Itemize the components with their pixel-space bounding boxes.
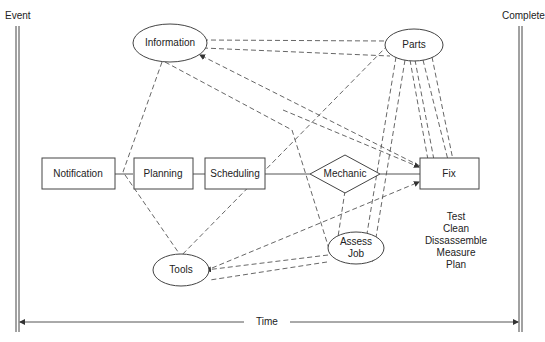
- mechanic-label: Mechanic: [324, 168, 367, 180]
- information-label: Information: [145, 37, 195, 49]
- planning-label: Planning: [144, 168, 183, 180]
- activity-dissassemble: Dissassemble: [425, 235, 487, 247]
- event-label: Event: [5, 10, 31, 22]
- activity-plan: Plan: [425, 259, 487, 271]
- job-label: Job: [348, 248, 364, 260]
- complete-label: Complete: [502, 10, 545, 22]
- complete-boundary: [519, 26, 522, 332]
- parts-label: Parts: [402, 39, 425, 51]
- time-label: Time: [252, 316, 282, 328]
- tools-label: Tools: [169, 264, 192, 276]
- assess-label: Assess: [340, 236, 372, 248]
- activities-list: Test Clean Dissassemble Measure Plan: [425, 211, 487, 271]
- fix-label: Fix: [442, 168, 455, 180]
- activity-test: Test: [425, 211, 487, 223]
- notification-label: Notification: [53, 168, 102, 180]
- event-boundary: [16, 26, 19, 332]
- activity-measure: Measure: [425, 247, 487, 259]
- scheduling-label: Scheduling: [210, 168, 259, 180]
- activity-clean: Clean: [425, 223, 487, 235]
